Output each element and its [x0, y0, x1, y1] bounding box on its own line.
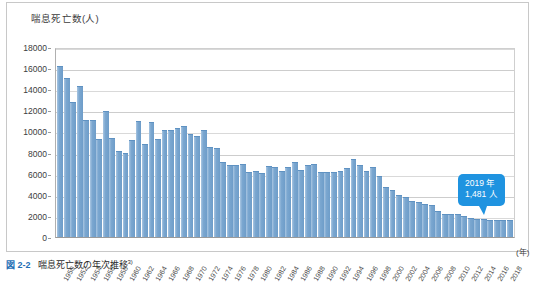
bar: [285, 167, 291, 237]
y-tick-mark-6000: [48, 175, 51, 176]
bar: [364, 171, 370, 237]
y-tick-mark-0: [48, 238, 51, 239]
bar: [129, 140, 135, 237]
bar: [351, 159, 357, 237]
y-tick-mark-14000: [48, 90, 51, 91]
bar: [162, 130, 168, 237]
figure-caption: 図 2-2喘息死亡数の年次推移3): [6, 258, 529, 271]
y-tick-mark-18000: [48, 48, 51, 49]
bar: [246, 172, 252, 237]
bar: [123, 153, 129, 237]
x-axis-unit-label: (年): [516, 246, 529, 257]
bar: [142, 144, 148, 237]
bar: [455, 214, 461, 237]
bar: [298, 170, 304, 238]
y-tick-label-14000: 14000: [23, 85, 47, 95]
caption-text: 喘息死亡数の年次推移: [38, 260, 128, 270]
y-tick-mark-2000: [48, 217, 51, 218]
bar: [227, 165, 233, 237]
bar: [207, 147, 213, 237]
y-tick-label-18000: 18000: [23, 43, 47, 53]
bar: [64, 78, 70, 237]
bar: [279, 171, 285, 237]
bar: [422, 204, 428, 237]
bar: [383, 187, 389, 237]
bar: [96, 139, 102, 237]
bar: [266, 166, 272, 237]
bar: [429, 205, 435, 237]
bar: [324, 172, 330, 237]
bar: [468, 218, 474, 237]
bar: [109, 138, 115, 237]
bar: [149, 122, 155, 237]
y-tick-label-4000: 4000: [28, 191, 47, 201]
bar: [116, 151, 122, 238]
figure-panel: 喘息死亡数(人) 0200040006000800010000120001400…: [6, 2, 529, 252]
bar: [77, 86, 83, 237]
bar: [194, 136, 200, 237]
bar-series: [56, 49, 514, 237]
y-tick-label-10000: 10000: [23, 127, 47, 137]
bar: [474, 219, 480, 237]
bar: [136, 121, 142, 237]
bar: [201, 130, 207, 237]
bar: [259, 173, 265, 237]
bar: [377, 176, 383, 237]
y-tick-mark-4000: [48, 196, 51, 197]
bar: [305, 165, 311, 237]
bar: [396, 195, 402, 237]
bar: [272, 167, 278, 237]
bar: [253, 171, 259, 237]
callout-year: 2019 年: [465, 178, 498, 189]
bar: [292, 162, 298, 237]
bar: [188, 134, 194, 237]
bar: [181, 126, 187, 237]
bar: [344, 168, 350, 237]
bar: [416, 202, 422, 237]
caption-superscript: 3): [128, 259, 133, 265]
y-axis-tick-labels: 0200040006000800010000120001400016000180…: [7, 41, 51, 241]
bar: [448, 214, 454, 237]
bar: [155, 139, 161, 237]
bar: [500, 220, 506, 237]
callout-pointer-icon: [479, 206, 487, 215]
plot-area: [55, 48, 515, 238]
y-tick-label-8000: 8000: [28, 149, 47, 159]
bar: [409, 201, 415, 237]
y-tick-label-2000: 2000: [28, 212, 47, 222]
y-tick-mark-10000: [48, 132, 51, 133]
y-tick-mark-8000: [48, 154, 51, 155]
y-tick-mark-12000: [48, 111, 51, 112]
bar: [338, 171, 344, 237]
bar: [70, 102, 76, 237]
y-tick-mark-16000: [48, 69, 51, 70]
bar: [403, 197, 409, 237]
y-axis-title: 喘息死亡数(人): [31, 11, 99, 25]
bar: [83, 120, 89, 237]
bar: [240, 164, 246, 237]
bar: [370, 167, 376, 237]
bar: [311, 164, 317, 237]
bar: [175, 128, 181, 237]
bar: [57, 66, 63, 237]
bar: [390, 190, 396, 237]
bar: [487, 220, 493, 237]
callout-value: 1,481 人: [465, 189, 498, 200]
annotation-callout-2019: 2019 年 1,481 人: [459, 175, 504, 205]
bar: [331, 172, 337, 237]
y-tick-label-16000: 16000: [23, 64, 47, 74]
bar: [435, 211, 441, 237]
bar: [357, 165, 363, 237]
bar: [442, 214, 448, 237]
bar: [507, 220, 513, 237]
bar: [103, 111, 109, 237]
caption-number: 図 2-2: [6, 260, 31, 270]
bar: [494, 220, 500, 237]
y-tick-label-6000: 6000: [28, 170, 47, 180]
bar: [461, 216, 467, 237]
bar: [481, 219, 487, 237]
y-tick-label-0: 0: [42, 233, 47, 243]
bar: [214, 148, 220, 237]
bar: [90, 120, 96, 237]
bar: [220, 162, 226, 237]
